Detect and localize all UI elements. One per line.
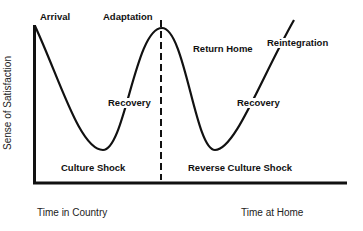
label-recovery-1: Recovery [107,98,152,108]
y-axis-label: Sense of Satisfaction [2,56,13,150]
w-curve-line [35,20,294,150]
label-reintegration: Reintegration [266,38,329,48]
w-curve-diagram [0,0,363,231]
label-arrival: Arrival [40,12,70,22]
x-axis-label-home: Time at Home [241,208,303,218]
label-return-home: Return Home [193,44,253,54]
label-culture-shock: Culture Shock [61,163,125,173]
label-reverse-culture-shock: Reverse Culture Shock [188,163,292,173]
x-axis-label-country: Time in Country [37,208,107,218]
label-adaptation: Adaptation [103,12,153,22]
label-recovery-2: Recovery [236,98,281,108]
